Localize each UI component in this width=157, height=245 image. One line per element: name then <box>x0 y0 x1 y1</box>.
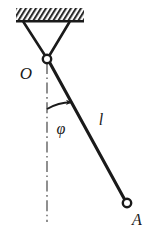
angle-label: φ <box>57 120 66 138</box>
length-label: l <box>99 111 104 128</box>
pivot-hinge-circle-icon <box>43 55 51 63</box>
hatched-ceiling-icon <box>16 8 84 21</box>
bob-label: A <box>131 211 142 228</box>
v-bracket-icon <box>24 22 70 57</box>
pivot-label: O <box>20 64 32 83</box>
angle-arc-arrow-icon <box>47 102 71 109</box>
pendulum-bob-circle-icon <box>123 199 131 207</box>
pendulum-figure: O φ l A <box>0 0 157 245</box>
pendulum-diagram: O φ l A <box>0 0 157 245</box>
